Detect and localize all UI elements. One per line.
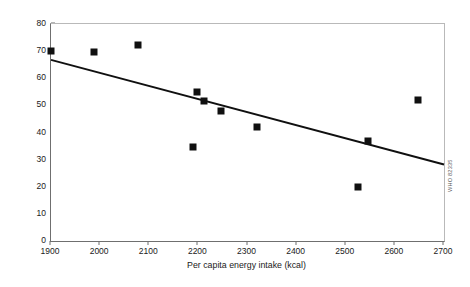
data-point	[364, 137, 371, 144]
data-point	[91, 49, 98, 56]
plot-inner	[51, 24, 444, 241]
x-tick-mark	[246, 241, 247, 245]
y-tick-label: 10	[26, 209, 46, 218]
x-tick-label: 2600	[384, 247, 403, 256]
trendline-segment	[51, 60, 444, 165]
y-tick-label: 50	[26, 100, 46, 109]
chart-figure: Percentage of children underweight 01020…	[0, 0, 470, 287]
x-tick-mark	[99, 241, 100, 245]
y-tick-label: 70	[26, 46, 46, 55]
x-tick-mark	[344, 241, 345, 245]
data-point	[218, 108, 225, 115]
y-tick-label: 0	[26, 236, 46, 245]
x-tick-mark	[295, 241, 296, 245]
x-tick-mark	[443, 241, 444, 245]
data-point	[354, 183, 361, 190]
data-point	[254, 124, 261, 131]
x-tick-mark	[393, 241, 394, 245]
x-tick-mark	[148, 241, 149, 245]
who-watermark: WHO 82335	[447, 159, 453, 192]
y-tick-label: 20	[26, 182, 46, 191]
x-tick-label: 2300	[237, 247, 256, 256]
x-tick-label: 2100	[139, 247, 158, 256]
data-point	[190, 144, 197, 151]
data-point	[415, 96, 422, 103]
plot-area	[50, 23, 445, 242]
data-point	[48, 47, 55, 54]
y-tick-label: 60	[26, 73, 46, 82]
trendline	[51, 24, 444, 241]
y-tick-label: 30	[26, 154, 46, 163]
x-tick-mark	[197, 241, 198, 245]
y-tick-label: 80	[26, 19, 46, 28]
data-point	[135, 41, 142, 48]
y-tick-label: 40	[26, 127, 46, 136]
x-tick-mark	[50, 241, 51, 245]
x-tick-label: 2200	[188, 247, 207, 256]
data-point	[193, 88, 200, 95]
x-tick-label: 2500	[335, 247, 354, 256]
x-tick-label: 2400	[286, 247, 305, 256]
x-tick-label: 1900	[41, 247, 60, 256]
data-point	[200, 98, 207, 105]
x-tick-label: 2000	[90, 247, 109, 256]
x-tick-label: 2700	[434, 247, 453, 256]
x-axis-title: Per capita energy intake (kcal)	[50, 261, 443, 270]
